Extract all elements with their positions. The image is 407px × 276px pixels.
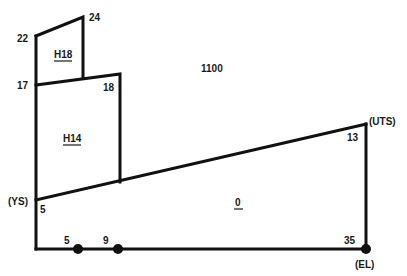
label-17: 17 <box>17 80 29 91</box>
label-ys-value: 5 <box>40 204 46 215</box>
label-ys: (YS) <box>8 196 28 207</box>
label-24: 24 <box>89 12 101 23</box>
region-label-h18: H18 <box>54 49 73 60</box>
label-18: 18 <box>103 82 115 93</box>
ys-uts-line <box>36 124 366 200</box>
label-bottom-35: 35 <box>344 235 356 246</box>
h18-region-outline <box>36 17 83 78</box>
label-22: 22 <box>17 33 29 44</box>
region-label-h14: H14 <box>63 133 82 144</box>
baseline-point-9 <box>113 244 123 254</box>
baseline-point-el <box>361 244 371 254</box>
region-label-1100: 1100 <box>201 63 223 74</box>
label-el: (EL) <box>355 259 374 270</box>
label-bottom-9: 9 <box>103 235 109 246</box>
temper-property-diagram: 22 24 17 18 (YS) 5 (UTS) 13 5 9 35 (EL) … <box>0 0 407 276</box>
region-label-o: 0 <box>235 197 241 208</box>
label-uts-value: 13 <box>347 132 359 143</box>
baseline-point-5 <box>73 244 83 254</box>
label-uts: (UTS) <box>369 116 396 127</box>
label-bottom-5: 5 <box>64 235 70 246</box>
